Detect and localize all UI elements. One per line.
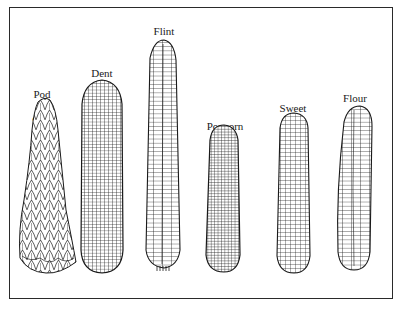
corn-illustrations xyxy=(0,0,402,311)
flour-corn-ear xyxy=(338,106,372,270)
pod-corn-ear xyxy=(20,98,77,273)
popcorn-ear xyxy=(206,125,240,272)
dent-corn-ear xyxy=(81,80,123,273)
sweet-corn-ear xyxy=(277,113,310,273)
flint-corn-ear xyxy=(146,40,180,271)
